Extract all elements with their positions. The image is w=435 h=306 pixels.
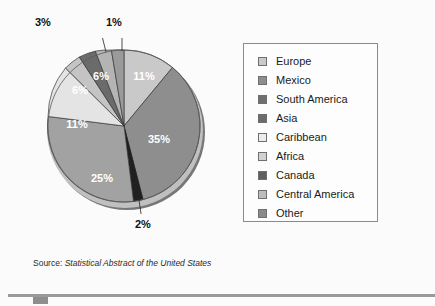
legend-item-asia[interactable]: Asia [258, 109, 377, 128]
legend-item-central-america[interactable]: Central America [258, 185, 377, 204]
footer-rule [8, 294, 435, 297]
legend-item-mexico[interactable]: Mexico [258, 71, 377, 90]
source-label: Source: [33, 258, 62, 268]
legend-label-asia: Asia [276, 113, 297, 124]
legend-label-africa: Africa [276, 151, 304, 162]
legend-swatch-icon-mexico [258, 76, 267, 85]
slice-label-south-america: 2% [135, 218, 151, 230]
legend-swatch-icon-europe [258, 57, 267, 66]
chart-figure: 11% 35% 25% 11% 6% 6% 3% 1% 2% Europe Me… [0, 0, 435, 306]
legend-swatch-icon-asia [258, 114, 267, 123]
legend-item-other[interactable]: Other [258, 204, 377, 223]
slice-label-africa: 6% [72, 84, 88, 96]
slice-label-asia: 25% [91, 172, 113, 184]
chart-legend: Europe Mexico South America Asia Caribbe… [243, 43, 378, 222]
source-note: Source: Statistical Abstract of the Unit… [33, 258, 211, 268]
legend-swatch-icon-other [258, 209, 267, 218]
legend-label-europe: Europe [276, 56, 311, 67]
legend-label-central-america: Central America [276, 189, 354, 200]
legend-item-canada[interactable]: Canada [258, 166, 377, 185]
slice-label-canada: 6% [93, 70, 109, 82]
footer-tab [33, 297, 48, 304]
pie-chart: 11% 35% 25% 11% 6% 6% 3% 1% 2% [40, 38, 216, 214]
legend-item-caribbean[interactable]: Caribbean [258, 128, 377, 147]
legend-swatch-icon-africa [258, 152, 267, 161]
legend-swatch-icon-canada [258, 171, 267, 180]
legend-swatch-icon-south-america [258, 95, 267, 104]
legend-label-canada: Canada [276, 170, 315, 181]
legend-swatch-icon-caribbean [258, 133, 267, 142]
source-title: Statistical Abstract of the United State… [65, 258, 212, 268]
pie-chart-svg: 11% 35% 25% 11% 6% 6% [40, 38, 216, 214]
legend-label-mexico: Mexico [276, 75, 311, 86]
legend-label-caribbean: Caribbean [276, 132, 327, 143]
slice-label-europe: 11% [133, 70, 155, 82]
legend-swatch-icon-central-america [258, 190, 267, 199]
legend-item-africa[interactable]: Africa [258, 147, 377, 166]
legend-label-other: Other [276, 208, 304, 219]
slice-label-caribbean: 11% [66, 118, 88, 130]
legend-item-europe[interactable]: Europe [258, 52, 377, 71]
slice-label-central-america: 3% [35, 16, 51, 28]
slice-label-mexico: 35% [148, 133, 170, 145]
pie-slice-asia [47, 116, 133, 202]
slice-label-other: 1% [106, 16, 122, 28]
legend-item-south-america[interactable]: South America [258, 90, 377, 109]
legend-label-south-america: South America [276, 94, 348, 105]
